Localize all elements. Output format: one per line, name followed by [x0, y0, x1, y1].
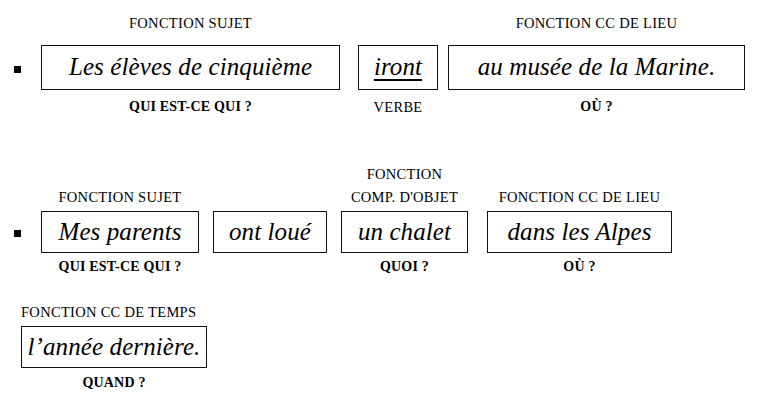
question-label-subject-2: QUI EST-CE QUI ?	[41, 259, 199, 275]
word-group-box-place-1[interactable]: au musée de la Marine.	[448, 45, 745, 90]
question-label-object-2: QUOI ?	[341, 259, 468, 275]
function-label-time-3: FONCTION CC DE TEMPS	[21, 303, 227, 322]
function-label-place-2: FONCTION CC DE LIEU	[487, 188, 672, 207]
word-group-text: Les élèves de cinquième	[63, 54, 318, 79]
word-group-box-verb-2[interactable]: ont loué	[213, 211, 327, 253]
function-label-object-2-line1: FONCTION	[341, 165, 468, 184]
function-label-object-2-line2: COMP. D'OBJET	[341, 188, 468, 207]
word-group-box-verb-1[interactable]: iront	[358, 45, 438, 90]
question-label-subject-1: QUI EST-CE QUI ?	[41, 99, 340, 115]
word-group-text: dans les Alpes	[502, 219, 658, 244]
function-label-subject-1: FONCTION SUJET	[41, 14, 340, 33]
question-label-verb-1: VERBE	[358, 99, 438, 116]
sentence-bullet-2	[14, 230, 21, 237]
word-group-box-time-3[interactable]: l’année dernière.	[21, 326, 207, 368]
question-label-time-3: QUAND ?	[21, 375, 207, 391]
word-group-text: l’année dernière.	[22, 334, 207, 359]
word-group-box-subject-1[interactable]: Les élèves de cinquième	[41, 45, 340, 90]
word-group-box-object-2[interactable]: un chalet	[341, 211, 468, 253]
word-group-box-subject-2[interactable]: Mes parents	[41, 211, 199, 253]
word-group-text: un chalet	[352, 219, 457, 244]
function-label-place-1: FONCTION CC DE LIEU	[448, 14, 745, 33]
question-label-place-2: OÙ ?	[487, 259, 672, 275]
question-label-place-1: OÙ ?	[448, 99, 745, 115]
word-group-text: iront	[368, 54, 428, 79]
sentence-bullet-1	[14, 66, 21, 73]
word-group-box-place-2[interactable]: dans les Alpes	[487, 211, 672, 253]
word-group-text: Mes parents	[52, 219, 187, 244]
word-group-text: au musée de la Marine.	[472, 54, 722, 79]
word-group-text: ont loué	[223, 219, 317, 244]
function-label-subject-2: FONCTION SUJET	[41, 188, 199, 207]
